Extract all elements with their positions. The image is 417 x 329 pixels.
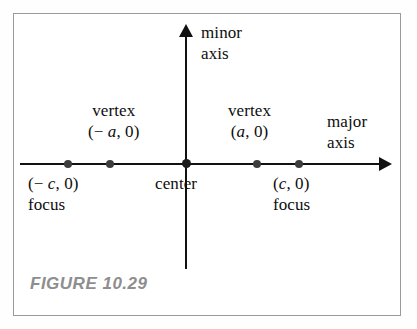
focus-right-coord-close: , 0) — [286, 174, 309, 193]
minor-axis-label-line2: axis — [201, 43, 242, 64]
focus-left-coord-close: , 0) — [55, 174, 78, 193]
minor-axis-line — [185, 36, 187, 269]
point-focus-left — [64, 160, 72, 168]
major-axis-label-line2: axis — [327, 132, 367, 153]
vertex-right-coord-close: , 0) — [245, 122, 268, 141]
focus-right-title: focus — [273, 194, 310, 215]
focus-left-coordinate: (− c, 0) — [28, 174, 79, 193]
focus-left-label: (− c, 0) focus — [28, 173, 79, 215]
minor-axis-label: minor axis — [201, 22, 242, 64]
vertex-left-coord-open: (− — [88, 122, 108, 141]
point-vertex-left — [106, 160, 114, 168]
major-axis-label-line1: major — [327, 112, 367, 131]
point-center — [182, 159, 191, 168]
focus-right-label: (c, 0) focus — [273, 173, 310, 215]
major-axis-label: major axis — [327, 111, 367, 153]
vertex-right-title: vertex — [228, 101, 271, 120]
minor-axis-arrow-icon — [179, 24, 193, 37]
major-axis-arrow-icon — [379, 157, 392, 171]
figure-container: minor axis major axis vertex (− a, 0) ve… — [0, 0, 417, 329]
vertex-left-coord-close: , 0) — [116, 122, 139, 141]
focus-left-coord-open: (− — [28, 174, 48, 193]
focus-right-coordinate: (c, 0) — [273, 174, 309, 193]
major-axis-line — [20, 163, 386, 165]
vertex-right-coordinate: (a, 0) — [228, 121, 271, 142]
vertex-right-coord-var: a — [237, 122, 246, 141]
focus-left-title: focus — [28, 194, 79, 215]
figure-caption: FIGURE 10.29 — [30, 274, 148, 294]
minor-axis-label-line1: minor — [201, 23, 242, 42]
vertex-left-label: vertex (− a, 0) — [88, 100, 139, 142]
vertex-left-title: vertex — [92, 101, 135, 120]
point-vertex-right — [253, 160, 261, 168]
vertex-right-label: vertex (a, 0) — [228, 100, 271, 142]
point-focus-right — [295, 160, 303, 168]
center-label: center — [155, 173, 197, 194]
vertex-left-coordinate: (− a, 0) — [88, 121, 139, 142]
